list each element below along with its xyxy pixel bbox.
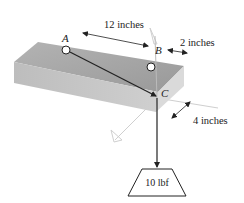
label-4-inches: 4 inches <box>193 115 228 126</box>
label-C: C <box>161 87 169 99</box>
label-12-inches: 12 inches <box>104 19 144 30</box>
dim-4in-arrow <box>172 102 190 118</box>
label-B: B <box>155 44 162 56</box>
weight: 10 lbf <box>128 169 186 196</box>
dim-12in-arrow <box>83 33 148 46</box>
point-B-marker <box>147 63 155 71</box>
statics-diagram: A B C 12 inches 2 inches 4 inches 10 lbf <box>0 0 244 203</box>
dim-2in-arrow <box>168 50 187 53</box>
label-A: A <box>61 32 69 44</box>
label-2-inches: 2 inches <box>180 37 215 48</box>
point-A-marker <box>62 46 70 54</box>
weight-label: 10 lbf <box>145 177 169 188</box>
